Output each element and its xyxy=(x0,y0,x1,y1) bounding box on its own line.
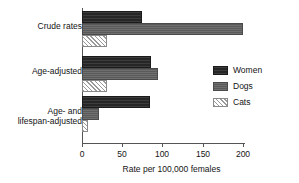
x-tick-150 xyxy=(203,143,204,147)
x-tick-200 xyxy=(243,143,244,147)
bar-dogs-group-2 xyxy=(82,68,158,80)
bar-women-group-2 xyxy=(82,56,151,68)
x-axis-line xyxy=(82,143,245,144)
x-tick-label-0: 0 xyxy=(80,149,85,159)
x-tick-label-100: 100 xyxy=(155,149,169,159)
legend-label-women: Women xyxy=(233,65,262,75)
legend-swatch-women xyxy=(213,66,228,75)
x-tick-100 xyxy=(162,143,163,147)
bar-chart: Crude rates Age-adjusted Age- and lifesp… xyxy=(0,0,299,183)
bar-women-group-1 xyxy=(82,11,142,23)
bar-cats-group-2 xyxy=(82,80,107,92)
legend-item-women: Women xyxy=(213,63,262,77)
x-tick-50 xyxy=(122,143,123,147)
x-tick-0 xyxy=(82,143,83,147)
category-label-age-and-lifespan-adjusted: Age- and lifespan-adjusted xyxy=(4,106,82,126)
legend-label-cats: Cats xyxy=(233,97,250,107)
bar-women-group-3 xyxy=(82,96,150,108)
category-label-crude-rates: Crude rates xyxy=(4,21,82,31)
legend-item-dogs: Dogs xyxy=(213,79,262,93)
legend: Women Dogs Cats xyxy=(213,63,262,111)
category-label-age-adjusted: Age-adjusted xyxy=(4,66,82,76)
legend-item-cats: Cats xyxy=(213,95,262,109)
bar-dogs-group-3 xyxy=(82,108,99,120)
bar-cats-group-3 xyxy=(82,120,88,132)
legend-swatch-dogs xyxy=(213,82,228,91)
x-tick-label-150: 150 xyxy=(196,149,210,159)
x-tick-label-200: 200 xyxy=(236,149,250,159)
x-tick-label-50: 50 xyxy=(117,149,126,159)
legend-swatch-cats xyxy=(213,98,228,107)
bar-cats-group-1 xyxy=(82,35,107,47)
bar-dogs-group-1 xyxy=(82,23,243,35)
x-axis-title: Rate per 100,000 females xyxy=(0,164,299,174)
legend-label-dogs: Dogs xyxy=(233,81,253,91)
